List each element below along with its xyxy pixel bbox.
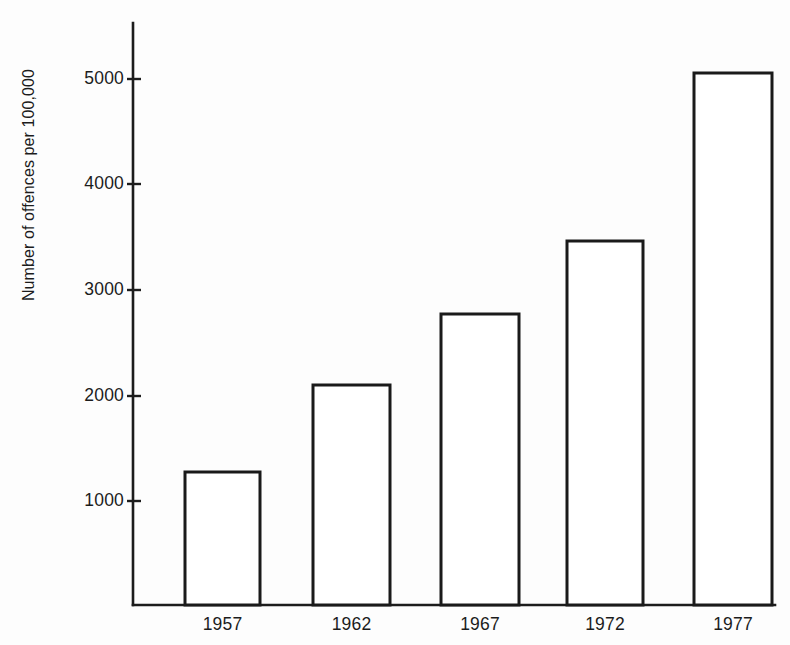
chart-canvas: 10002000300040005000 1957196219671972197… — [0, 0, 790, 645]
bar-1967 — [441, 314, 519, 605]
x-axis-label-1967: 1967 — [460, 614, 500, 634]
y-axis-tick-label-2000: 2000 — [84, 385, 124, 405]
y-axis-tick-label-1000: 1000 — [84, 490, 124, 510]
bar-1962 — [313, 385, 390, 605]
bar-1972 — [567, 241, 643, 605]
bar-chart-figure: 10002000300040005000 1957196219671972197… — [0, 0, 790, 645]
bar-1977 — [694, 73, 772, 605]
x-axis-label-1972: 1972 — [585, 614, 625, 634]
y-axis-tick-label-3000: 3000 — [84, 279, 124, 299]
x-axis-label-1977: 1977 — [713, 614, 753, 634]
y-axis-tick-label-5000: 5000 — [84, 68, 124, 88]
x-axis-label-1962: 1962 — [332, 614, 372, 634]
y-axis-title-group: Number of offences per 100,000 — [20, 69, 37, 301]
y-axis-title: Number of offences per 100,000 — [20, 69, 37, 301]
chart-background — [0, 0, 790, 645]
x-axis-label-1957: 1957 — [203, 614, 243, 634]
y-axis-tick-label-4000: 4000 — [84, 173, 124, 193]
bar-1957 — [185, 472, 260, 605]
